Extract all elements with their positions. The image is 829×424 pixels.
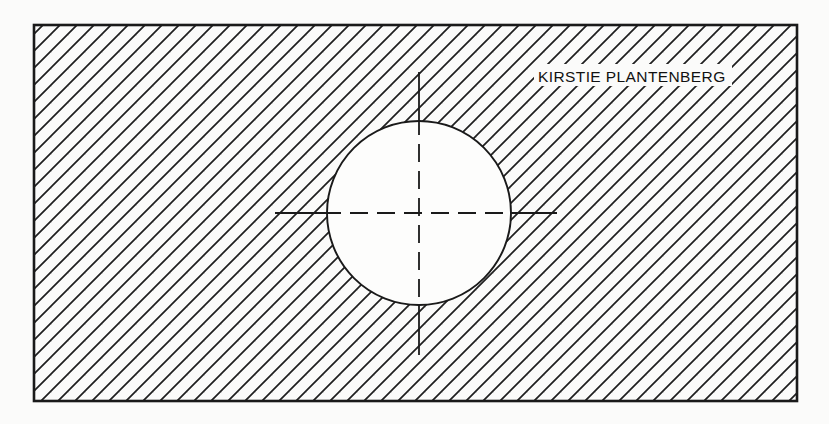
author-name-label: KIRSTIE PLANTENBERG: [538, 68, 726, 85]
technical-drawing-svg: KIRSTIE PLANTENBERG: [0, 0, 829, 424]
drawing-canvas: KIRSTIE PLANTENBERG: [0, 0, 829, 424]
